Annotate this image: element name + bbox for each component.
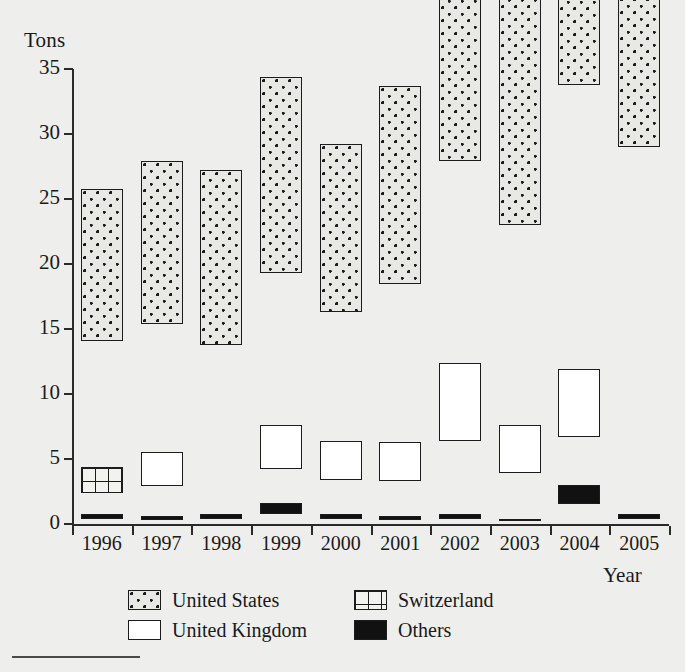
bar-segment-others [439,514,481,519]
bar-segment-others [200,514,242,519]
y-tick-label: 20 [18,252,60,273]
x-tick-label: 2000 [311,532,371,555]
bar-segment-united-states [499,0,541,225]
bar-segment-united-states [200,170,242,344]
bar-2000[interactable] [320,312,362,524]
y-tick [64,458,73,460]
legend-label: Switzerland [398,589,494,612]
y-tick-label: 30 [18,122,60,143]
bar-segment-switzerland [81,467,123,493]
y-axis-title: Tons [24,28,65,53]
bar-segment-others [558,485,600,505]
legend-item-united-kingdom: United Kingdom [128,619,354,642]
bar-segment-united-states [618,0,660,147]
y-tick-label: 10 [18,382,60,403]
y-tick-label: 5 [18,447,60,468]
legend: United States Switzerland United Kingdom… [128,585,558,645]
legend-label: United Kingdom [172,619,307,642]
bar-2004[interactable] [558,85,600,524]
bar-segment-united-states [260,77,302,273]
bar-segment-united-states [81,189,123,341]
bar-segment-united-states [141,161,183,324]
x-tick-label: 1999 [251,532,311,555]
y-tick-label: 0 [18,512,60,533]
bar-segment-others [320,514,362,519]
bar-segment-united-kingdom [141,452,183,486]
white-swatch-icon [128,620,161,640]
x-tick [669,526,671,535]
y-tick [64,133,73,135]
bar-segment-united-kingdom [320,441,362,480]
x-tick-label: 1998 [191,532,251,555]
bar-segment-others [260,503,302,513]
y-tick [64,198,73,200]
footer-rule [12,656,140,658]
x-tick-label: 2003 [490,532,550,555]
dotted-swatch-icon [128,590,161,610]
bar-segment-united-kingdom [558,369,600,437]
bar-1997[interactable] [141,324,183,524]
bar-segment-united-kingdom [260,425,302,469]
bar-2003[interactable] [499,225,541,524]
bar-1998[interactable] [200,345,242,524]
bar-segment-united-states [320,144,362,312]
bar-segment-united-kingdom [379,442,421,481]
x-tick-label: 2005 [609,532,669,555]
y-tick [64,328,73,330]
legend-row: United Kingdom Others [128,615,558,645]
bar-1999[interactable] [260,273,302,524]
bar-segment-united-states [379,86,421,284]
y-tick [64,523,73,525]
black-swatch-icon [354,620,387,640]
x-tick-label: 1997 [132,532,192,555]
bar-segment-united-kingdom [499,425,541,473]
bar-segment-others [499,519,541,522]
legend-label: Others [398,619,451,642]
bar-2001[interactable] [379,284,421,525]
bar-segment-others [379,516,421,520]
bar-chart: Tons Year 05101520253035 199619971998199… [0,0,685,672]
y-tick-label: 15 [18,317,60,338]
x-tick-label: 2004 [549,532,609,555]
y-tick-label: 25 [18,187,60,208]
x-tick-label: 2001 [370,532,430,555]
bar-2002[interactable] [439,161,481,524]
y-tick [64,68,73,70]
bar-segment-others [618,514,660,519]
legend-item-switzerland: Switzerland [354,589,494,612]
bar-segment-united-states [558,0,600,85]
x-axis-title: Year [603,563,642,588]
y-tick [64,393,73,395]
bar-2005[interactable] [618,147,660,524]
x-tick-label: 2002 [430,532,490,555]
grid-swatch-icon [354,590,387,610]
bar-1996[interactable] [81,341,123,524]
legend-item-united-states: United States [128,589,354,612]
bar-segment-others [141,516,183,520]
bar-segment-united-kingdom [439,363,481,441]
legend-item-others: Others [354,619,451,642]
bar-segment-united-states [439,0,481,161]
y-tick [64,263,73,265]
legend-row: United States Switzerland [128,585,558,615]
x-tick-label: 1996 [72,532,132,555]
y-tick-label: 35 [18,57,60,78]
legend-label: United States [172,589,279,612]
bar-segment-others [81,514,123,519]
